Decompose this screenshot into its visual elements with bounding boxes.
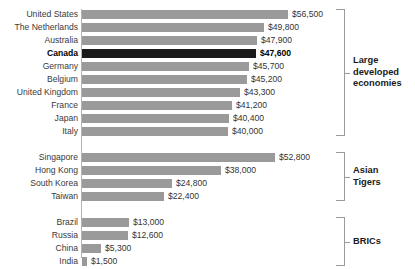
- bar-value-label: $40,000: [232, 126, 263, 137]
- group-label-line: developed: [353, 67, 402, 79]
- bar: [82, 49, 256, 58]
- group-label-line: Asian: [353, 165, 381, 177]
- bar-value-label: $41,200: [236, 100, 267, 111]
- bar-row: Brazil$13,000: [0, 217, 415, 230]
- bar: [82, 127, 228, 136]
- group-label-line: BRICs: [353, 236, 381, 248]
- bar-value-label: $5,300: [105, 243, 131, 254]
- bar-row-label: The Netherlands: [0, 22, 78, 33]
- bar-row: Italy$40,000: [0, 126, 415, 139]
- bar-value-label: $1,500: [91, 256, 117, 267]
- bar: [82, 179, 172, 188]
- group-label-line: economies: [353, 78, 402, 90]
- group-bracket-tick: [345, 73, 350, 74]
- group-bracket-large-developed-economies: [336, 9, 345, 136]
- bar: [82, 231, 128, 240]
- bar: [82, 10, 288, 19]
- bar-row-label: China: [0, 243, 78, 254]
- bar-row-label: India: [0, 256, 78, 267]
- bar-row: Japan$40,400: [0, 113, 415, 126]
- bar-row-label: Singapore: [0, 152, 78, 163]
- bar-row: United States$56,500: [0, 9, 415, 22]
- bar: [82, 192, 164, 201]
- bar-value-label: $12,600: [132, 230, 163, 241]
- bar-row: India$1,500: [0, 256, 415, 269]
- bar-row-label: South Korea: [0, 178, 78, 189]
- bar-value-label: $52,800: [279, 152, 310, 163]
- bar-row-label: Brazil: [0, 217, 78, 228]
- bar-value-label: $56,500: [292, 9, 323, 20]
- bar-value-label: $45,200: [251, 74, 282, 85]
- bar: [82, 23, 264, 32]
- bar: [82, 88, 240, 97]
- bar-row-label: Taiwan: [0, 191, 78, 202]
- bar-row-label: Italy: [0, 126, 78, 137]
- bar: [82, 218, 129, 227]
- bar-value-label: $47,600: [260, 48, 291, 59]
- bar-value-label: $38,000: [225, 165, 256, 176]
- bar-value-label: $43,300: [244, 87, 275, 98]
- bar: [82, 244, 101, 253]
- bar-row: France$41,200: [0, 100, 415, 113]
- bar-value-label: $45,700: [253, 61, 284, 72]
- bar-row-label: Germany: [0, 61, 78, 72]
- group-label-line: Large: [353, 55, 402, 67]
- bar-row-label: Russia: [0, 230, 78, 241]
- bar: [82, 153, 275, 162]
- bar-value-label: $13,000: [133, 217, 164, 228]
- bar: [82, 101, 232, 110]
- bar-value-label: $47,900: [261, 35, 292, 46]
- bar-value-label: $24,800: [176, 178, 207, 189]
- bar-row: The Netherlands$49,800: [0, 22, 415, 35]
- bar-value-label: $40,400: [233, 113, 264, 124]
- bar-row: Singapore$52,800: [0, 152, 415, 165]
- group-label-line: Tigers: [353, 177, 381, 189]
- bar-row-label: Belgium: [0, 74, 78, 85]
- bar-row-label: Australia: [0, 35, 78, 46]
- bar-row-label: France: [0, 100, 78, 111]
- group-bracket-tick: [345, 177, 350, 178]
- bar: [82, 62, 249, 71]
- bar-row-label: Canada: [0, 48, 78, 59]
- group-bracket-brics: [336, 217, 345, 266]
- bar: [82, 257, 87, 266]
- bar-row: Taiwan$22,400: [0, 191, 415, 204]
- bar-row-label: United States: [0, 9, 78, 20]
- bar: [82, 114, 229, 123]
- bar-row-label: Japan: [0, 113, 78, 124]
- bar-row: Australia$47,900: [0, 35, 415, 48]
- group-label-brics: BRICs: [353, 236, 381, 248]
- group-bracket-asian-tigers: [336, 152, 345, 201]
- bar-value-label: $22,400: [168, 191, 199, 202]
- bar: [82, 166, 221, 175]
- bar: [82, 36, 257, 45]
- group-label-large-developed-economies: Largedevelopedeconomies: [353, 55, 402, 90]
- group-label-asian-tigers: AsianTigers: [353, 165, 381, 188]
- bar-row-label: Hong Kong: [0, 165, 78, 176]
- bar: [82, 75, 247, 84]
- bar-value-label: $49,800: [268, 22, 299, 33]
- group-bracket-tick: [345, 242, 350, 243]
- bar-row-label: United Kingdom: [0, 87, 78, 98]
